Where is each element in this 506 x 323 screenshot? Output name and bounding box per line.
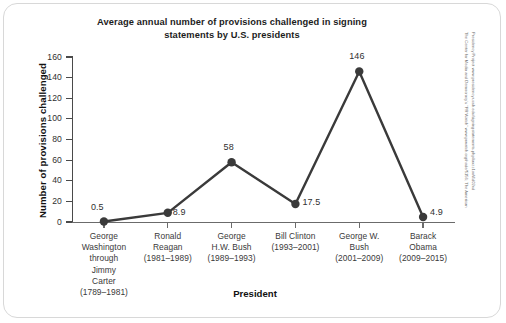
data-point-marker (227, 158, 235, 166)
series-markers (100, 67, 428, 225)
data-value-label: 58 (224, 142, 234, 152)
data-point-marker (419, 213, 427, 221)
source-credit-line-2: Presidency Project www.presidency.ucsb.e… (470, 32, 475, 190)
chart-screenshot: Average annual number of provisions chal… (0, 0, 506, 323)
data-value-label: 4.9 (430, 207, 443, 217)
plot-area: 020406080100120140160 Number of provisio… (0, 0, 506, 323)
source-credit-line-1: The Center for Media and Democracy's "PR… (463, 32, 468, 208)
data-point-marker (291, 200, 299, 208)
data-value-label: 0.5 (91, 202, 104, 212)
data-value-label: 17.5 (302, 197, 320, 207)
data-point-marker (164, 209, 172, 217)
series-polyline (104, 71, 423, 221)
series-line-chart (0, 0, 506, 323)
data-point-marker (100, 217, 108, 225)
source-credit: The Center for Media and Democracy's "PR… (461, 32, 483, 290)
data-value-label: 8.9 (173, 207, 186, 217)
data-point-marker (355, 67, 363, 75)
data-value-label: 146 (349, 51, 364, 61)
